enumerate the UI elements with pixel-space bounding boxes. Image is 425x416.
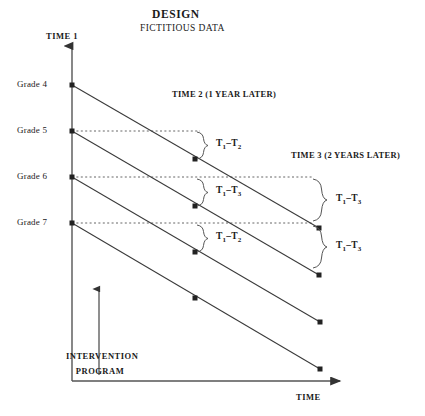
data-point-grade5-time1 <box>70 129 75 134</box>
chart-subtitle: FICTITIOUS DATA <box>140 23 225 33</box>
intervention-label-line2: PROGRAM <box>66 366 134 376</box>
data-point-grade5-time3 <box>317 273 322 278</box>
data-point-grade7-time1 <box>70 221 75 226</box>
data-point-grade7-time2 <box>193 296 198 301</box>
x-axis-label: TIME <box>296 392 321 402</box>
data-point-grade4-time2 <box>193 157 198 162</box>
tick-label-grade4: Grade 4 <box>17 79 47 89</box>
tick-label-grade6: Grade 6 <box>17 171 47 181</box>
data-point-grade6-time3 <box>318 320 323 325</box>
brace-t1-t2-lower <box>197 225 208 252</box>
y-axis-label: TIME 1 <box>46 31 78 41</box>
brace-sub2: 3 <box>238 190 242 198</box>
brace-t1-t3-middle <box>197 179 208 206</box>
time2-label: TIME 2 (1 YEAR LATER) <box>172 89 276 99</box>
brace-t1-t3-right-upper <box>313 179 327 221</box>
tick-label-grade5: Grade 5 <box>17 125 47 135</box>
data-point-grade7-time3 <box>318 367 323 372</box>
brace-label-t1-t3-right-lower: T1–T3 <box>336 240 361 253</box>
brace-sub2: 2 <box>238 236 242 244</box>
intervention-label-line1: INTERVENTION <box>66 351 134 361</box>
data-point-grade4-time1 <box>70 83 75 88</box>
brace-t1-t2-upper <box>197 132 208 159</box>
brace-sub2: 3 <box>358 198 362 206</box>
brace-sub2: 3 <box>358 245 362 253</box>
time3-label: TIME 3 (2 YEARS LATER) <box>291 150 400 160</box>
brace-label-t1-t3-middle: T1–T3 <box>216 185 241 198</box>
design-figure: DESIGN FICTITIOUS DATA TIME 1 TIME Grade… <box>0 0 425 416</box>
data-point-grade6-time2 <box>193 250 198 255</box>
brace-label-t1-t3-right-upper: T1–T3 <box>336 193 361 206</box>
brace-sub2: 2 <box>238 143 242 151</box>
data-point-grade5-time2 <box>193 204 198 209</box>
brace-t1-t3-right-lower <box>313 226 327 268</box>
figure-canvas <box>0 0 425 416</box>
brace-label-t1-t2-lower: T1–T2 <box>216 231 241 244</box>
data-point-grade6-time1 <box>70 175 75 180</box>
chart-title: DESIGN <box>152 8 200 20</box>
brace-label-t1-t2-upper: T1–T2 <box>216 138 241 151</box>
tick-label-grade7: Grade 7 <box>17 217 47 227</box>
